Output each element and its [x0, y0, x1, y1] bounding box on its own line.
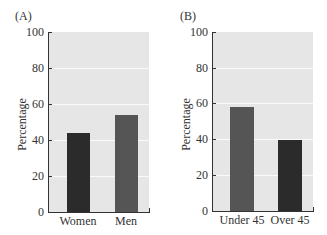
panel-b-label: (B) — [180, 9, 196, 24]
y-axis — [48, 32, 49, 213]
x-axis-end-tick — [313, 207, 314, 211]
y-axis-label: Percentage — [15, 95, 30, 155]
bar-women — [67, 133, 90, 212]
y-tick — [212, 139, 216, 140]
y-tick-label: 20 — [184, 168, 208, 183]
y-tick-label: 0 — [20, 205, 44, 220]
gridline-60 — [49, 104, 149, 105]
gridline-80 — [213, 68, 313, 69]
y-tick — [48, 140, 52, 141]
y-tick — [48, 104, 52, 105]
x-axis — [48, 212, 150, 213]
category-label-men: Men — [96, 214, 156, 229]
gridline-80 — [49, 68, 149, 69]
y-tick — [212, 32, 216, 33]
gridline-60 — [213, 103, 313, 104]
bar-men — [115, 115, 138, 212]
y-tick-label: 80 — [20, 61, 44, 76]
x-axis — [212, 211, 314, 212]
y-tick-label: 100 — [184, 25, 208, 40]
y-tick — [212, 68, 216, 69]
y-axis-label: Percentage — [179, 95, 194, 155]
bar-over-45 — [278, 140, 302, 211]
y-tick-label: 0 — [184, 204, 208, 219]
y-tick-label: 80 — [184, 61, 208, 76]
y-tick — [212, 175, 216, 176]
y-tick — [48, 68, 52, 69]
y-tick — [212, 103, 216, 104]
category-label-over-45: Over 45 — [260, 213, 320, 228]
y-tick — [48, 32, 52, 33]
y-tick-label: 100 — [20, 25, 44, 40]
panel-a-label: (A) — [15, 9, 32, 24]
bar-under-45 — [230, 107, 254, 211]
y-axis — [212, 32, 213, 212]
y-tick-label: 20 — [20, 169, 44, 184]
x-axis-end-tick — [149, 208, 150, 212]
y-tick — [48, 176, 52, 177]
